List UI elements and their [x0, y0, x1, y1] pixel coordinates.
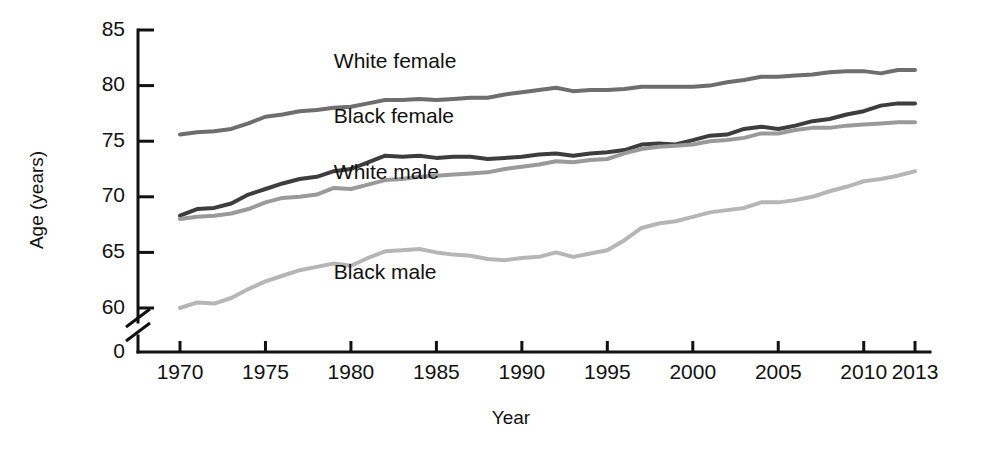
series-line-black-male: [180, 171, 915, 308]
series-lines: [180, 70, 915, 308]
y-tick-label: 60: [102, 295, 125, 318]
series-label-white-female: White female: [334, 49, 457, 72]
series-labels: White femaleBlack femaleWhite maleBlack …: [334, 49, 457, 283]
axes: [126, 30, 930, 352]
series-label-black-male: Black male: [334, 260, 437, 283]
series-line-white-male: [180, 122, 915, 219]
x-tick-label: 1985: [413, 360, 460, 383]
x-tick-label: 2010: [840, 360, 887, 383]
x-axis-ticks: 1970197519801985199019952000200520102013: [157, 341, 939, 383]
x-tick-label: 1995: [584, 360, 631, 383]
x-tick-label: 1970: [157, 360, 204, 383]
series-label-black-female: Black female: [334, 104, 454, 127]
y-tick-label: 85: [102, 17, 125, 40]
y-tick-label-zero: 0: [113, 339, 125, 362]
y-axis-title: Age (years): [26, 151, 47, 249]
x-tick-label: 2000: [669, 360, 716, 383]
x-tick-label: 2005: [755, 360, 802, 383]
chart-svg: Age (years) Year 6065707580850 197019751…: [0, 0, 983, 451]
y-tick-label: 80: [102, 72, 125, 95]
y-tick-label: 65: [102, 239, 125, 262]
x-tick-label: 2013: [892, 360, 939, 383]
y-axis-ticks: 6065707580850: [102, 17, 154, 362]
x-tick-label: 1990: [499, 360, 546, 383]
line-chart: Age (years) Year 6065707580850 197019751…: [0, 0, 983, 451]
y-tick-label: 70: [102, 183, 125, 206]
x-tick-label: 1980: [328, 360, 375, 383]
x-axis-title: Year: [492, 407, 531, 428]
y-tick-label: 75: [102, 128, 125, 151]
x-tick-label: 1975: [242, 360, 289, 383]
series-label-white-male: White male: [334, 160, 439, 183]
